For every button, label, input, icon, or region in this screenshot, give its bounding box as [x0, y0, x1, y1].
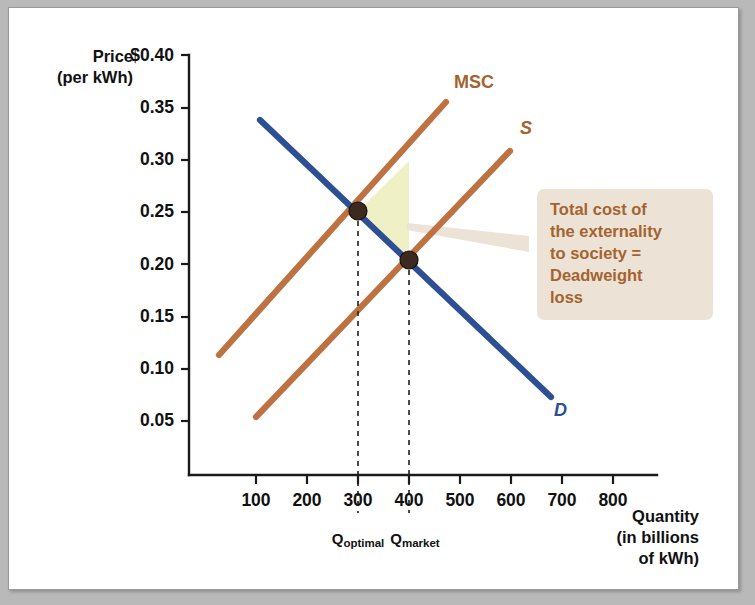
q-market-label: Qmarket — [355, 530, 475, 548]
deadweight-loss-callout: Total cost of the externality to society… — [537, 189, 713, 320]
y-axis-title-line2: (per kWh) — [13, 68, 133, 87]
plot-stage: Price (per kWh) $0.40 0.35 0.30 0.25 0.2… — [9, 8, 740, 591]
figure-frame: Price (per kWh) $0.40 0.35 0.30 0.25 0.2… — [8, 7, 739, 590]
callout-line-5: loss — [550, 287, 701, 309]
callout-line-2: the externality — [550, 221, 701, 243]
q-market-subscript: market — [402, 537, 440, 549]
callout-line-1: Total cost of — [550, 199, 701, 221]
x-axis-title-line2: (in billions — [509, 528, 699, 547]
y-tick-label: $0.40 — [69, 45, 174, 66]
y-tick-label: 0.30 — [69, 149, 174, 170]
callout-line-4: Deadweight — [550, 265, 701, 287]
y-tick-label: 0.20 — [69, 254, 174, 275]
demand-curve-label: D — [554, 400, 567, 421]
q-optimal-base: Q — [332, 530, 344, 547]
y-tick-label: 0.15 — [69, 306, 174, 327]
x-axis-title-line1: Quantity — [509, 507, 699, 526]
x-axis-title-line3: of kWh) — [509, 549, 699, 568]
y-tick-label: 0.10 — [69, 358, 174, 379]
callout-line-3: to society = — [550, 243, 701, 265]
q-market-base: Q — [390, 530, 402, 547]
supply-curve-label: S — [520, 118, 532, 139]
y-tick-label: 0.35 — [69, 97, 174, 118]
y-tick-label: 0.05 — [69, 410, 174, 431]
optimal-equilibrium-dot — [349, 202, 367, 220]
y-tick-label: 0.25 — [69, 201, 174, 222]
msc-curve-label: MSC — [454, 72, 494, 93]
market-equilibrium-dot — [400, 251, 418, 269]
